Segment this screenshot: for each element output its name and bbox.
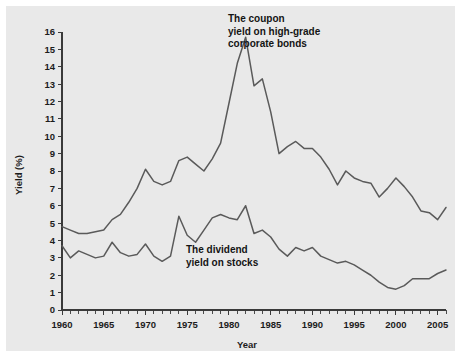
x-tick-label: 1965 [93, 319, 115, 330]
y-tick-label: 9 [50, 148, 55, 159]
bond-yield-line [62, 37, 446, 233]
x-tick-label: 1985 [260, 319, 282, 330]
y-tick-label: 11 [45, 113, 56, 124]
y-tick-label: 1 [50, 287, 56, 298]
y-tick-label: 4 [50, 235, 56, 246]
y-tick-label: 13 [44, 79, 55, 90]
x-tick-label: 1990 [302, 319, 323, 330]
x-tick-label: 1980 [218, 319, 239, 330]
yield-comparison-chart: 012345678910111213141516 196019651970197… [0, 0, 461, 364]
y-tick-label: 0 [50, 304, 55, 315]
x-tick-label: 1970 [135, 319, 156, 330]
figure-container: 012345678910111213141516 196019651970197… [0, 0, 461, 364]
annotation-line: The dividend [186, 244, 248, 255]
dividend-annotation: The dividendyield on stocks [186, 244, 259, 268]
annotation-line: corporate bonds [228, 38, 307, 49]
bond-annotation: The couponyield on high-gradecorporate b… [228, 13, 321, 49]
x-tick-label: 2005 [427, 319, 449, 330]
annotation-line: yield on high-grade [228, 26, 321, 37]
x-axis: 1960196519701975198019851990199520002005 [51, 310, 449, 330]
y-tick-label: 12 [44, 96, 55, 107]
y-axis-title: Yield (%) [13, 155, 24, 195]
y-tick-label: 7 [50, 183, 55, 194]
y-tick-label: 5 [50, 218, 56, 229]
y-tick-label: 8 [50, 165, 55, 176]
x-tick-label: 1995 [344, 319, 366, 330]
y-tick-label: 6 [50, 200, 55, 211]
annotation-line: yield on stocks [186, 257, 259, 268]
x-tick-label: 1975 [177, 319, 199, 330]
annotation-line: The coupon [228, 13, 285, 24]
y-tick-label: 3 [50, 252, 55, 263]
x-tick-label: 2000 [385, 319, 406, 330]
y-axis: 012345678910111213141516 [44, 26, 62, 315]
y-tick-label: 2 [50, 270, 55, 281]
dividend-yield-line [62, 206, 446, 289]
y-tick-label: 10 [44, 131, 55, 142]
y-tick-label: 15 [44, 44, 55, 55]
data-series-group [62, 37, 446, 289]
y-tick-label: 14 [44, 61, 55, 72]
x-tick-label: 1960 [51, 319, 72, 330]
y-tick-label: 16 [44, 26, 55, 37]
x-axis-title: Year [237, 339, 257, 350]
